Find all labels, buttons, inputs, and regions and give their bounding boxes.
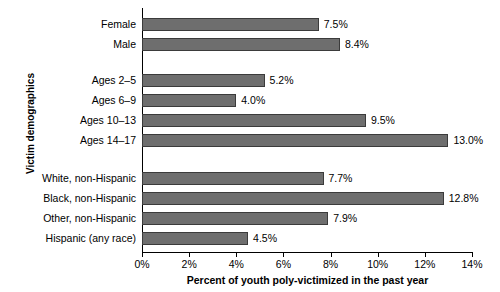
x-tick (142, 253, 143, 257)
x-tick (236, 253, 237, 257)
bar (142, 192, 444, 205)
bar-row: Male8.4% (142, 38, 340, 51)
category-label: Hispanic (any race) (46, 231, 142, 245)
category-label: White, non-Hispanic (42, 171, 142, 185)
x-tick (378, 253, 379, 257)
x-tick-label: 14% (461, 258, 482, 270)
bar (142, 114, 366, 127)
bar (142, 232, 248, 245)
bar-row: Ages 14–1713.0% (142, 134, 448, 147)
x-tick-label: 4% (229, 258, 244, 270)
category-label: Black, non-Hispanic (43, 191, 142, 205)
category-label: Male (113, 37, 142, 51)
category-label: Ages 14–17 (80, 133, 142, 147)
bar-row: Other, non-Hispanic7.9% (142, 212, 328, 225)
bar (142, 94, 236, 107)
category-label: Female (101, 17, 142, 31)
category-label: Ages 10–13 (80, 113, 142, 127)
bar-value-label: 13.0% (453, 133, 483, 147)
bar-value-label: 4.5% (253, 231, 277, 245)
bar-value-label: 4.0% (241, 93, 265, 107)
bar-value-label: 7.9% (333, 211, 357, 225)
x-tick (331, 253, 332, 257)
bar (142, 38, 340, 51)
bar-chart: Victim demographics Female7.5%Male8.4%Ag… (0, 0, 500, 292)
x-tick (425, 253, 426, 257)
x-tick-label: 10% (367, 258, 388, 270)
x-tick (283, 253, 284, 257)
bar (142, 18, 319, 31)
category-label: Ages 2–5 (92, 73, 142, 87)
bar-value-label: 7.5% (324, 17, 348, 31)
bar-value-label: 12.8% (449, 191, 479, 205)
bar (142, 212, 328, 225)
x-axis-title: Percent of youth poly-victimized in the … (142, 274, 473, 286)
bar-value-label: 7.7% (329, 171, 353, 185)
bar (142, 74, 265, 87)
x-tick-label: 6% (276, 258, 291, 270)
bar (142, 134, 448, 147)
bar (142, 172, 324, 185)
x-tick-label: 0% (134, 258, 149, 270)
bar-value-label: 5.2% (270, 73, 294, 87)
x-tick-label: 12% (414, 258, 435, 270)
bar-row: Hispanic (any race)4.5% (142, 232, 248, 245)
category-label: Ages 6–9 (92, 93, 142, 107)
x-tick (189, 253, 190, 257)
x-tick-label: 8% (323, 258, 338, 270)
y-axis-title: Victim demographics (25, 44, 36, 204)
bar-row: Ages 10–139.5% (142, 114, 366, 127)
bar-value-label: 8.4% (345, 37, 369, 51)
bar-value-label: 9.5% (371, 113, 395, 127)
bar-row: Ages 6–94.0% (142, 94, 236, 107)
x-tick (472, 253, 473, 257)
x-tick-label: 2% (182, 258, 197, 270)
bar-row: Female7.5% (142, 18, 319, 31)
bar-row: Ages 2–55.2% (142, 74, 265, 87)
plot-area: Female7.5%Male8.4%Ages 2–55.2%Ages 6–94.… (142, 8, 472, 253)
category-label: Other, non-Hispanic (43, 211, 142, 225)
bar-row: Black, non-Hispanic12.8% (142, 192, 444, 205)
bar-row: White, non-Hispanic7.7% (142, 172, 324, 185)
